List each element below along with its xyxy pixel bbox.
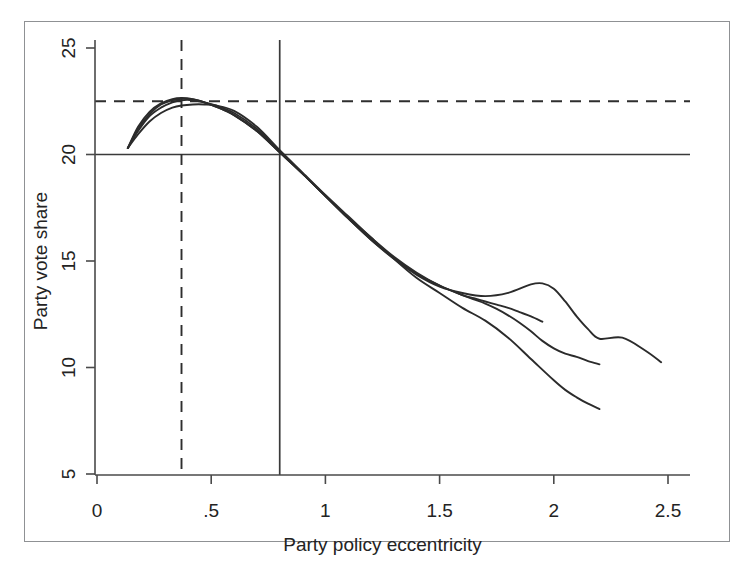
axis-labels-group: 5101520250.511.522.5Party policy eccentr… xyxy=(30,37,682,554)
y-tick-label: 20 xyxy=(58,144,79,165)
x-tick-label: 1 xyxy=(320,500,331,521)
y-axis-title: Party vote share xyxy=(30,192,51,330)
x-tick-label: 2 xyxy=(549,500,560,521)
x-tick-label: 0 xyxy=(92,500,103,521)
curve-4 xyxy=(128,104,600,409)
y-tick-label: 15 xyxy=(58,250,79,271)
x-tick-label: .5 xyxy=(203,500,219,521)
data-curves-group xyxy=(128,98,661,409)
y-tick-label: 5 xyxy=(58,469,79,480)
x-tick-label: 2.5 xyxy=(655,500,681,521)
y-tick-label: 10 xyxy=(58,357,79,378)
x-tick-label: 1.5 xyxy=(426,500,452,521)
curve-1 xyxy=(128,98,661,362)
chart-canvas: 5101520250.511.522.5Party policy eccentr… xyxy=(0,0,751,565)
x-axis-title: Party policy eccentricity xyxy=(283,534,482,555)
curve-3 xyxy=(128,100,543,322)
y-tick-label: 25 xyxy=(58,37,79,58)
figure-root: 5101520250.511.522.5Party policy eccentr… xyxy=(0,0,751,565)
